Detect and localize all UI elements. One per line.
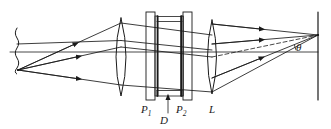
ray-lower-out-arrow [212,58,262,78]
label-lens-l: L [209,104,215,115]
label-plate-1: P1 [141,104,151,118]
ray-upper-mid [121,23,212,35]
label-spacing-d: D [160,115,168,126]
figure-canvas: P1 P2 D L θ [0,0,331,129]
source-screen-wavy-line [15,28,18,74]
etalon-plate-2-holder-outer [183,12,192,100]
label-plate-2: P2 [176,104,186,118]
ray-upper-out-arrow [212,24,262,29]
ray-lower-mid [121,85,212,92]
ray-middle-in-arrow [18,56,79,70]
ray-lower-in-arrow [18,70,79,79]
label-angle-theta: θ [296,42,301,53]
ray-diagram-svg [0,0,331,129]
ray-upper-in-arrow [18,44,76,71]
ray-axial-in [17,41,121,45]
ray-middle-out-arrow [212,40,262,44]
dashed-reference-ray [212,35,318,57]
ray-outer-lower-out [212,35,318,92]
